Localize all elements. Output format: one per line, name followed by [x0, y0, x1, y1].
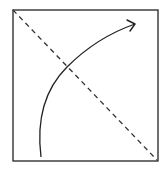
dashed-diagonal-line: [13, 10, 157, 160]
diagram-canvas: [0, 0, 165, 170]
curved-arrow-path: [40, 24, 135, 157]
